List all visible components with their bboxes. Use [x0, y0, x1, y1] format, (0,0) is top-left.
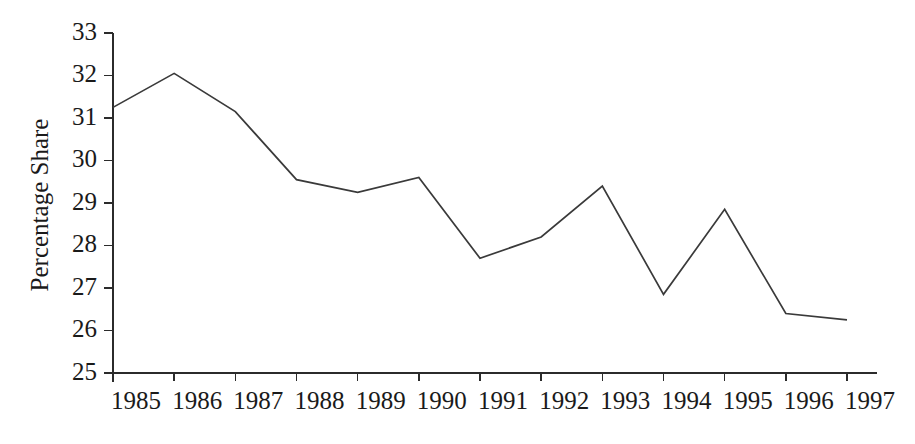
y-tick-label-27: 27 [72, 273, 97, 300]
x-axis-group: 1985198619871988198919901991199219931994… [111, 373, 895, 414]
y-axis-group: 252627282930313233 [72, 18, 113, 385]
x-tick-label-1986: 1986 [172, 387, 222, 414]
x-tick-label-1988: 1988 [295, 387, 345, 414]
x-tick-label-1993: 1993 [600, 387, 650, 414]
y-tick-label-30: 30 [72, 145, 97, 172]
x-axis-tick-labels: 1985198619871988198919901991199219931994… [111, 387, 895, 414]
y-axis-ticks [104, 33, 113, 373]
y-tick-label-29: 29 [72, 188, 97, 215]
x-tick-label-1996: 1996 [784, 387, 834, 414]
x-tick-label-1989: 1989 [356, 387, 406, 414]
x-tick-label-1990: 1990 [417, 387, 467, 414]
y-tick-label-33: 33 [72, 18, 97, 45]
data-series-line [113, 73, 847, 320]
x-tick-label-1992: 1992 [539, 387, 589, 414]
y-tick-label-26: 26 [72, 315, 97, 342]
y-tick-label-32: 32 [72, 60, 97, 87]
y-tick-label-25: 25 [72, 358, 97, 385]
y-tick-label-31: 31 [72, 103, 97, 130]
chart-canvas: 252627282930313233 198519861987198819891… [0, 0, 915, 444]
x-tick-label-1985: 1985 [111, 387, 161, 414]
x-tick-label-1987: 1987 [233, 387, 283, 414]
x-tick-label-1997: 1997 [845, 387, 895, 414]
line-chart-figure: 252627282930313233 198519861987198819891… [0, 0, 915, 444]
x-axis-ticks [113, 373, 847, 382]
x-tick-label-1995: 1995 [723, 387, 773, 414]
y-axis-tick-labels: 252627282930313233 [72, 18, 97, 385]
y-tick-label-28: 28 [72, 230, 97, 257]
x-tick-label-1991: 1991 [478, 387, 528, 414]
x-tick-label-1994: 1994 [662, 387, 713, 414]
y-axis-title: Percentage Share [26, 119, 53, 292]
